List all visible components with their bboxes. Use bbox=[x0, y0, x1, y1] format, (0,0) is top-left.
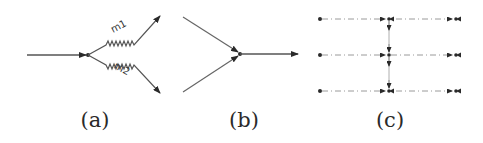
label-m1: m1 bbox=[109, 17, 128, 34]
incoming-line-upper bbox=[183, 17, 238, 52]
caption-c: (c) bbox=[376, 108, 404, 132]
row-top bbox=[318, 17, 461, 22]
panel-b-diagram bbox=[183, 17, 298, 92]
incoming-line-lower bbox=[183, 56, 238, 92]
caption-b: (b) bbox=[229, 108, 259, 132]
panel-a-diagram: m1 m2 bbox=[27, 16, 160, 93]
caption-a: (a) bbox=[81, 108, 110, 132]
label-m2: m2 bbox=[112, 60, 131, 77]
row-middle bbox=[318, 53, 461, 58]
panel-c-diagram bbox=[318, 17, 461, 94]
row-bottom bbox=[318, 89, 461, 94]
